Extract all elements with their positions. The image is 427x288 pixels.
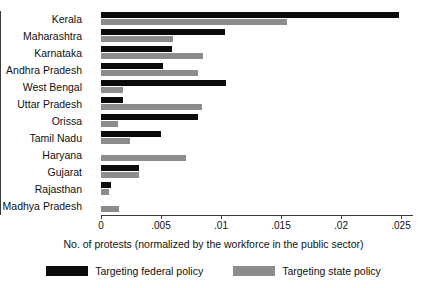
bar-group-haryana: Haryana	[101, 147, 413, 164]
chart-legend: Targeting federal policyTargeting state …	[0, 265, 427, 277]
bar-federal	[101, 46, 172, 52]
category-label: Madhya Pradesh	[0, 198, 82, 215]
bar-group-andhra-pradesh: Andhra Pradesh	[101, 62, 413, 79]
bar-state	[101, 206, 119, 212]
bar-federal	[101, 12, 399, 18]
bar-state	[101, 138, 130, 144]
x-tick-label: 0	[81, 220, 121, 231]
category-label: Karnataka	[0, 45, 82, 62]
bar-state	[101, 155, 186, 161]
bar-state	[101, 53, 203, 59]
bar-group-rajasthan: Rajasthan	[101, 181, 413, 198]
legend-swatch	[233, 266, 275, 276]
legend-item: Targeting federal policy	[46, 265, 203, 277]
bar-federal	[101, 131, 161, 137]
category-label: Tamil Nadu	[0, 130, 82, 147]
bar-state	[101, 104, 202, 110]
plot-area: KeralaMaharashtraKarnatakaAndhra Pradesh…	[101, 11, 413, 215]
category-label: Gujarat	[0, 164, 82, 181]
category-label: West Bengal	[0, 79, 82, 96]
chart-container: KeralaMaharashtraKarnatakaAndhra Pradesh…	[0, 0, 427, 288]
bar-state	[101, 36, 173, 42]
x-tick-label: .005	[141, 220, 181, 231]
legend-label: Targeting state policy	[282, 265, 381, 277]
x-axis-title: No. of protests (normalized by the workf…	[0, 238, 427, 250]
category-label: Maharashtra	[0, 28, 82, 45]
x-axis-line	[101, 215, 413, 216]
x-tick-mark	[281, 215, 282, 219]
bar-federal	[101, 80, 226, 86]
bar-group-gujarat: Gujarat	[101, 164, 413, 181]
category-label: Haryana	[0, 147, 82, 164]
bar-group-uttar-pradesh: Uttar Pradesh	[101, 96, 413, 113]
bar-federal	[101, 63, 163, 69]
x-tick-label: .02	[321, 220, 361, 231]
bar-group-west-bengal: West Bengal	[101, 79, 413, 96]
x-tick-label: .015	[261, 220, 301, 231]
bar-federal	[101, 182, 111, 188]
bar-state	[101, 172, 139, 178]
bar-state	[101, 121, 118, 127]
x-tick-mark	[401, 215, 402, 219]
category-label: Andhra Pradesh	[0, 62, 82, 79]
bar-state	[101, 87, 123, 93]
legend-swatch	[46, 266, 88, 276]
bar-group-madhya-pradesh: Madhya Pradesh	[101, 198, 413, 215]
x-tick-mark	[341, 215, 342, 219]
bar-state	[101, 189, 109, 195]
category-label: Rajasthan	[0, 181, 82, 198]
bar-state	[101, 70, 198, 76]
bar-federal	[101, 114, 198, 120]
legend-label: Targeting federal policy	[95, 265, 203, 277]
x-tick-label: .025	[381, 220, 421, 231]
category-label: Orissa	[0, 113, 82, 130]
bar-group-maharashtra: Maharashtra	[101, 28, 413, 45]
x-tick-mark	[161, 215, 162, 219]
bar-group-kerala: Kerala	[101, 11, 413, 28]
x-tick-mark	[101, 215, 102, 219]
bar-federal	[101, 97, 123, 103]
bar-group-orissa: Orissa	[101, 113, 413, 130]
bar-state	[101, 19, 287, 25]
category-label: Uttar Pradesh	[0, 96, 82, 113]
bar-group-karnataka: Karnataka	[101, 45, 413, 62]
bar-federal	[101, 29, 225, 35]
legend-item: Targeting state policy	[233, 265, 381, 277]
x-tick-mark	[221, 215, 222, 219]
x-tick-label: .01	[201, 220, 241, 231]
category-label: Kerala	[0, 11, 82, 28]
bar-group-tamil-nadu: Tamil Nadu	[101, 130, 413, 147]
bar-federal	[101, 165, 139, 171]
